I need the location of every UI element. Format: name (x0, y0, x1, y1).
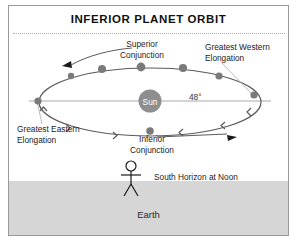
planet-dot-eastern-elongation (34, 97, 41, 104)
label-south-horizon: South Horizon at Noon (154, 172, 284, 183)
orbit-chevron-5 (247, 108, 251, 116)
label-superior-conjunction: Superior Conjunction (97, 39, 187, 60)
label-greatest-eastern-elongation: Greatest Eastern Elongation (17, 124, 109, 145)
diagram-root: INFERIOR PLANET ORBIT (0, 0, 297, 243)
planet-dot-5 (179, 64, 187, 72)
label-inferior-conjunction: Inferior Conjunction (107, 134, 197, 155)
planet-dot-western-elongation (250, 91, 257, 98)
orbit-arrow-top-left (62, 61, 72, 68)
greatest-western-leader (221, 62, 252, 94)
label-greatest-western-elongation: Greatest Western Elongation (205, 42, 289, 63)
planet-dot-3 (98, 65, 106, 73)
diagram-card: INFERIOR PLANET ORBIT (8, 5, 289, 236)
label-earth: Earth (9, 209, 288, 220)
planet-dot-2 (68, 73, 74, 79)
label-elongation-angle: 48° (189, 92, 202, 102)
planet-dot-superior-conjunction (137, 63, 146, 72)
label-sun: Sun (137, 97, 163, 107)
orbit-arrow-bottom-right (227, 135, 237, 141)
planet-dot-6 (215, 72, 222, 79)
